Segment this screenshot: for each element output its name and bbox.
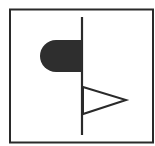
flag-triangle: [83, 87, 126, 114]
diagram-canvas: [0, 0, 155, 146]
actuator-dome: [40, 40, 82, 72]
